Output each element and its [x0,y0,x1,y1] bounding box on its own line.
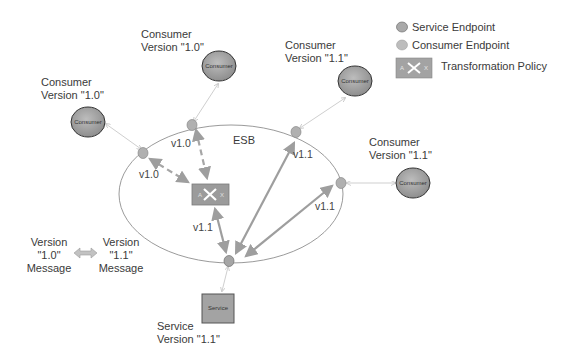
consumer-2-label-line2: Version "1.0" [141,41,204,54]
consumer-3-label-line1: Consumer [285,39,348,52]
consumer-node-3-text: Consumer [341,78,369,84]
message-legend-right: Version "1.1" Message [98,236,144,275]
consumer-4-label: Consumer Version "1.1" [369,136,432,162]
service-label: Service Version "1.1" [157,320,220,346]
service-label-line2: Version "1.1" [157,333,220,346]
consumer-4-label-line2: Version "1.1" [369,149,432,162]
message-left-line3: Message [26,262,72,275]
edge-label-c3: v1.1 [293,148,313,160]
message-right-line1: Version [98,236,144,249]
legend-service-endpoint-label: Service Endpoint [412,21,495,34]
consumer-3-label: Consumer Version "1.1" [285,39,348,65]
message-double-arrow-icon [74,248,97,258]
consumer-node-1-text: Consumer [74,119,102,125]
svg-text:X: X [220,192,224,198]
consumer-node-4-text: Consumer [399,180,427,186]
consumer-3-label-line2: Version "1.1" [285,52,348,65]
consumer-links [106,84,395,291]
svg-text:X: X [424,65,428,71]
message-legend-left: Version "1.0" Message [26,236,72,275]
esb-label: ESB [233,134,255,147]
consumer-2-label-line1: Consumer [141,28,204,41]
edge-label-c1: v1.0 [139,168,159,180]
consumer-2-label: Consumer Version "1.0" [141,28,204,54]
service-node-text: Service [208,305,229,311]
legend-transformation-policy-icon: A X [396,58,432,78]
edge-label-transform-service: v1.1 [193,221,213,233]
consumer-nodes [71,51,430,198]
message-right-line3: Message [98,262,144,275]
message-right-line2: "1.1" [98,249,144,262]
endpoint-c2[interactable] [187,120,197,131]
endpoint-c4[interactable] [336,178,346,189]
diagram-canvas: Consumer Consumer Consumer Consumer Serv… [0,0,565,358]
consumer-node-2-text: Consumer [205,63,233,69]
endpoint-c3[interactable] [291,127,301,138]
transformation-policy-node[interactable]: A X [192,184,229,205]
legend-transformation-policy-label: Transformation Policy [441,60,547,73]
legend-consumer-endpoint-label: Consumer Endpoint [412,39,509,52]
service-label-line1: Service [157,320,220,333]
consumer-1-label: Consumer Version "1.0" [41,76,104,102]
svg-text:A: A [400,65,404,71]
endpoint-c1[interactable] [138,148,148,159]
consumer-1-label-line2: Version "1.0" [41,89,104,102]
message-left-line1: Version [26,236,72,249]
consumer-4-label-line1: Consumer [369,136,432,149]
legend-consumer-endpoint-icon [397,40,408,50]
edge-label-c4: v1.1 [315,200,335,212]
endpoint-service[interactable] [224,256,234,267]
esb-ellipse [119,125,343,263]
edge-label-c2: v1.0 [171,137,191,149]
svg-text:A: A [198,192,202,198]
legend-service-endpoint-icon [397,22,408,32]
consumer-1-label-line1: Consumer [41,76,104,89]
message-left-line2: "1.0" [26,249,72,262]
